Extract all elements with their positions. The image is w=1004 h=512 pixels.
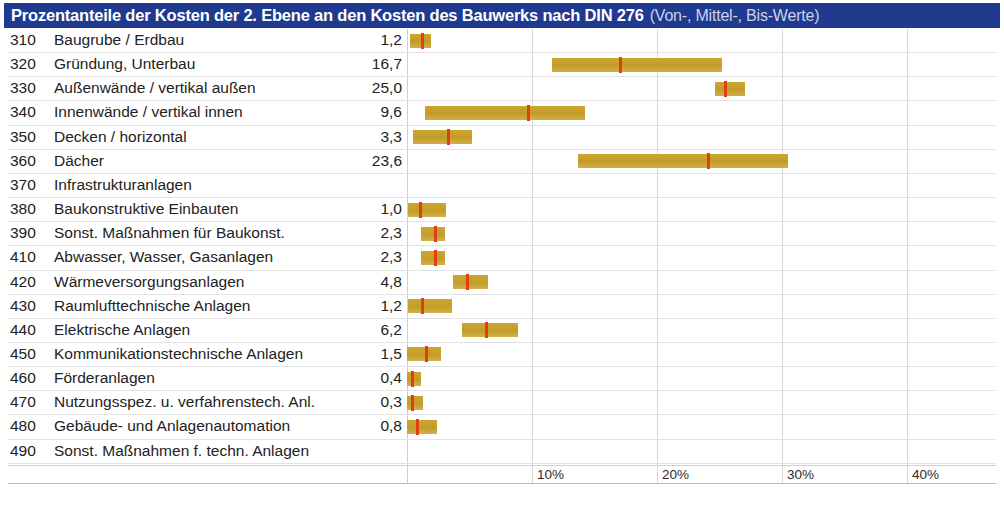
mean-marker: [434, 226, 437, 242]
row-code: 440: [10, 321, 52, 339]
row-label: Dächer: [54, 152, 104, 170]
mean-marker: [707, 153, 710, 169]
range-bar: [407, 396, 423, 410]
row-label: Sonst. Maßnahmen für Baukonst.: [54, 224, 285, 242]
row-value: 6,2: [300, 321, 402, 339]
row-label: Förderanlagen: [54, 369, 155, 387]
row-label: Decken / horizontal: [54, 128, 187, 146]
table-row[interactable]: 310Baugrube / Erdbau1,2: [0, 29, 1004, 53]
range-bar: [425, 106, 585, 120]
table-row[interactable]: 480Gebäude- und Anlagenautomation0,8: [0, 415, 1004, 439]
mean-marker: [724, 81, 727, 97]
range-bar: [578, 154, 788, 168]
row-code: 380: [10, 200, 52, 218]
row-code: 310: [10, 31, 52, 49]
table-row[interactable]: 380Baukonstruktive Einbauten1,0: [0, 198, 1004, 222]
table-row[interactable]: 320Gründung, Unterbau16,7: [0, 53, 1004, 77]
mean-marker: [411, 395, 414, 411]
range-bar: [552, 58, 722, 72]
row-value: 0,3: [300, 393, 402, 411]
axis-tick-10: 10%: [532, 467, 564, 482]
mean-marker: [421, 298, 424, 314]
row-label: Baukonstruktive Einbauten: [54, 200, 238, 218]
row-value: 3,3: [300, 128, 402, 146]
range-bar: [462, 323, 518, 337]
plot-area: 310Baugrube / Erdbau1,2320Gründung, Unte…: [0, 29, 1004, 512]
row-value: 23,6: [300, 152, 402, 170]
row-value: 2,3: [300, 224, 402, 242]
table-row[interactable]: 470Nutzungsspez. u. verfahrenstech. Anl.…: [0, 391, 1004, 415]
row-value: 4,8: [300, 273, 402, 291]
row-code: 410: [10, 248, 52, 266]
row-label: Abwasser, Wasser, Gasanlagen: [54, 248, 273, 266]
row-label: Wärmeversorgungsanlagen: [54, 273, 244, 291]
row-value: 1,2: [300, 31, 402, 49]
table-row[interactable]: 410Abwasser, Wasser, Gasanlagen2,3: [0, 246, 1004, 270]
table-row[interactable]: 390Sonst. Maßnahmen für Baukonst.2,3: [0, 222, 1004, 246]
row-code: 370: [10, 176, 52, 194]
row-label: Außenwände / vertikal außen: [54, 79, 256, 97]
row-code: 350: [10, 128, 52, 146]
row-label: Gebäude- und Anlagenautomation: [54, 417, 290, 435]
mean-marker: [447, 129, 450, 145]
table-row[interactable]: 370Infrastrukturanlagen: [0, 174, 1004, 198]
mean-marker: [466, 274, 469, 290]
range-bar: [453, 275, 488, 289]
row-label: Gründung, Unterbau: [54, 55, 195, 73]
row-label: Sonst. Maßnahmen f. techn. Anlagen: [54, 442, 309, 460]
row-value: 25,0: [300, 79, 402, 97]
chart-title: Prozentanteile der Kosten der 2. Ebene a…: [11, 6, 644, 25]
row-code: 330: [10, 79, 52, 97]
row-value: 1,0: [300, 200, 402, 218]
mean-marker: [485, 322, 488, 338]
mean-marker: [619, 57, 622, 73]
table-row[interactable]: 350Decken / horizontal3,3: [0, 126, 1004, 150]
table-row[interactable]: 340Innenwände / vertikal innen9,6: [0, 101, 1004, 125]
range-bar: [407, 420, 437, 434]
table-row[interactable]: 330Außenwände / vertikal außen25,0: [0, 77, 1004, 101]
row-code: 340: [10, 103, 52, 121]
row-code: 460: [10, 369, 52, 387]
row-label: Kommunikationstechnische Anlagen: [54, 345, 303, 363]
row-label: Elektrische Anlagen: [54, 321, 190, 339]
row-value: 1,5: [300, 345, 402, 363]
row-label: Raumlufttechnische Anlagen: [54, 297, 250, 315]
mean-marker: [527, 105, 530, 121]
row-code: 490: [10, 442, 52, 460]
table-row[interactable]: 420Wärmeversorgungsanlagen4,8: [0, 271, 1004, 295]
table-row[interactable]: 430Raumlufttechnische Anlagen1,2: [0, 295, 1004, 319]
row-value: 0,8: [300, 417, 402, 435]
row-value: 1,2: [300, 297, 402, 315]
row-value: 2,3: [300, 248, 402, 266]
range-bar: [408, 203, 446, 217]
axis-rule-bottom: [8, 483, 996, 484]
row-code: 450: [10, 345, 52, 363]
mean-marker: [425, 346, 428, 362]
mean-marker: [434, 250, 437, 266]
row-separator: [8, 463, 996, 464]
row-value: 9,6: [300, 103, 402, 121]
table-row[interactable]: 360Dächer23,6: [0, 150, 1004, 174]
table-row[interactable]: 490Sonst. Maßnahmen f. techn. Anlagen: [0, 440, 1004, 464]
table-row[interactable]: 450Kommunikationstechnische Anlagen1,5: [0, 343, 1004, 367]
row-label: Infrastrukturanlagen: [54, 176, 192, 194]
row-label: Innenwände / vertikal innen: [54, 103, 243, 121]
axis-tick-30: 30%: [782, 467, 814, 482]
range-bar: [408, 299, 452, 313]
mean-marker: [419, 202, 422, 218]
range-bar: [413, 130, 472, 144]
row-code: 480: [10, 417, 52, 435]
row-code: 360: [10, 152, 52, 170]
row-value: 16,7: [300, 55, 402, 73]
row-code: 390: [10, 224, 52, 242]
mean-marker: [421, 33, 424, 49]
row-code: 320: [10, 55, 52, 73]
table-row[interactable]: 460Förderanlagen0,4: [0, 367, 1004, 391]
chart-subtitle: (Von-, Mittel-, Bis-Werte): [650, 7, 820, 25]
table-row[interactable]: 440Elektrische Anlagen6,2: [0, 319, 1004, 343]
mean-marker: [416, 419, 419, 435]
chart-title-bar: Prozentanteile der Kosten der 2. Ebene a…: [4, 3, 1000, 28]
mean-marker: [411, 371, 414, 387]
row-value: 0,4: [300, 369, 402, 387]
axis-rule-top: [8, 465, 996, 466]
